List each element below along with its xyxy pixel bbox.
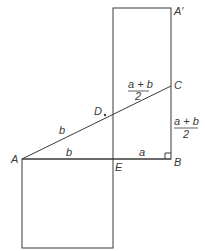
point-D-marker — [104, 114, 106, 116]
label-A-prime: A′ — [173, 5, 184, 17]
lower-square — [22, 159, 113, 248]
label-C: C — [174, 79, 182, 91]
line-AC — [22, 86, 171, 159]
label-E: E — [115, 161, 123, 173]
label-BC-denominator: 2 — [182, 128, 189, 140]
label-A: A — [10, 153, 18, 165]
label-AD-b: b — [59, 124, 65, 136]
label-B: B — [174, 156, 181, 168]
label-D: D — [94, 105, 102, 117]
label-BC-numerator: a + b — [174, 115, 199, 127]
label-DC-denominator: 2 — [134, 90, 141, 102]
label-AE-b: b — [66, 146, 72, 158]
label-DC-numerator: a + b — [128, 78, 153, 90]
right-angle-marker — [165, 153, 171, 159]
label-EB-a: a — [139, 146, 145, 158]
geometry-diagram: A′ C D A B E b b a a + b 2 a + b 2 — [0, 0, 205, 251]
